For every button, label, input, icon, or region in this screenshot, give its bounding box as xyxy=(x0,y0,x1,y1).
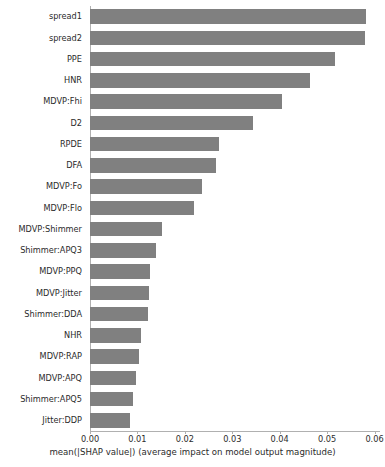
bar xyxy=(90,73,310,88)
bar xyxy=(90,243,156,258)
bar-row xyxy=(90,155,375,176)
y-axis-tick-label: NHR xyxy=(64,331,82,339)
x-axis-tick-label: 0.03 xyxy=(223,435,241,443)
y-axis-tick-label: MDVP:PPQ xyxy=(39,267,82,275)
x-axis-tick-label: 0.02 xyxy=(176,435,194,443)
bar-row xyxy=(90,49,375,70)
bar-row xyxy=(90,112,375,133)
y-axis-tick-label: HNR xyxy=(64,76,82,84)
bar xyxy=(90,371,136,386)
y-axis-tick-label: MDVP:RAP xyxy=(40,352,82,360)
x-axis-ticks: 0.000.010.020.030.040.050.06 xyxy=(0,431,385,447)
y-axis-tick-label: spread2 xyxy=(49,34,82,42)
bar xyxy=(90,264,150,279)
bar-row xyxy=(90,389,375,410)
x-axis-tick-label: 0.00 xyxy=(81,435,99,443)
bar-row xyxy=(90,219,375,240)
bar-row xyxy=(90,134,375,155)
y-axis-tick-label: Shimmer:APQ5 xyxy=(20,395,82,403)
bar xyxy=(90,392,133,407)
bar-row xyxy=(90,176,375,197)
bar xyxy=(90,52,335,67)
y-axis-tick-label: RPDE xyxy=(60,140,82,148)
bar xyxy=(90,158,216,173)
x-axis-tick-label: 0.01 xyxy=(128,435,146,443)
y-axis-tick-label: PPE xyxy=(67,55,82,63)
y-axis-tick-label: DFA xyxy=(66,161,82,169)
x-axis-tick-label: 0.05 xyxy=(318,435,336,443)
bar xyxy=(90,137,219,152)
bar xyxy=(90,116,253,131)
y-axis-tick-label: D2 xyxy=(70,119,82,127)
bar xyxy=(90,201,194,216)
y-axis-tick-label: Shimmer:APQ3 xyxy=(20,246,82,254)
x-axis-tick-label: 0.06 xyxy=(365,435,383,443)
bar xyxy=(90,179,202,194)
bar-row xyxy=(90,282,375,303)
x-axis-title: mean(|SHAP value|) (average impact on mo… xyxy=(0,448,385,457)
bar-row xyxy=(90,410,375,431)
shap-feature-importance-chart: spread1spread2PPEHNRMDVP:FhiD2RPDEDFAMDV… xyxy=(0,0,385,467)
bar xyxy=(90,9,366,24)
y-axis-tick-label: MDVP:Flo xyxy=(43,204,82,212)
bar-row xyxy=(90,367,375,388)
bar xyxy=(90,94,282,109)
bar xyxy=(90,31,365,46)
y-axis-tick-label: MDVP:Shimmer xyxy=(18,225,82,233)
bar xyxy=(90,286,149,301)
bar-row xyxy=(90,325,375,346)
bar-row xyxy=(90,261,375,282)
bar xyxy=(90,328,141,343)
y-axis-tick-label: MDVP:APQ xyxy=(38,374,82,382)
bar-row xyxy=(90,304,375,325)
bar xyxy=(90,349,139,364)
bar-row xyxy=(90,6,375,27)
bar xyxy=(90,413,130,428)
x-axis-tick-label: 0.04 xyxy=(271,435,289,443)
y-axis-tick-label: MDVP:Fo xyxy=(46,182,82,190)
y-axis-tick-labels: spread1spread2PPEHNRMDVP:FhiD2RPDEDFAMDV… xyxy=(0,6,86,431)
bar xyxy=(90,307,148,322)
plot-area xyxy=(90,6,375,431)
y-axis-tick-label: MDVP:Fhi xyxy=(43,97,82,105)
y-axis-tick-label: Shimmer:DDA xyxy=(24,310,82,318)
bar-row xyxy=(90,197,375,218)
bar xyxy=(90,222,162,237)
y-axis-tick-label: MDVP:Jitter xyxy=(36,289,82,297)
y-axis-tick-label: spread1 xyxy=(49,12,82,20)
bar-row xyxy=(90,70,375,91)
y-axis-tick-label: Jitter:DDP xyxy=(42,416,82,424)
bar-row xyxy=(90,240,375,261)
bar-row xyxy=(90,91,375,112)
bar-row xyxy=(90,346,375,367)
bar-row xyxy=(90,27,375,48)
